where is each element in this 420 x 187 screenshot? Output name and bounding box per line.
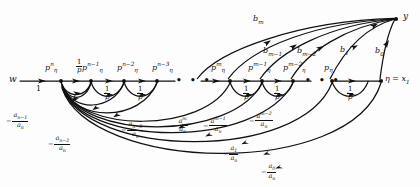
feedback-label-1: −a1an [223, 145, 238, 164]
feedback-label-n-3: −an−3an [121, 121, 143, 140]
node-label-w: w [9, 75, 17, 84]
edge-weight-gain-5: 1p [347, 86, 353, 101]
output-label-b-m: bm [253, 15, 264, 25]
node-label-n5: pm−1η [248, 62, 271, 74]
edge-weight-gain-top: 1p [76, 59, 82, 74]
edge-weight-gain-2: 1p [137, 86, 143, 101]
feedback-label-m-2: −am−2an [249, 112, 273, 130]
feedback-label-m-1: −am−1an [203, 117, 227, 135]
node-label-n6: pm−2η [283, 62, 306, 74]
edge-weight-gain-3: 1p [243, 86, 249, 101]
node-label-n3: pn−3η [152, 62, 173, 74]
node-label-y: y [403, 12, 408, 21]
ellipsis-left: • • • [176, 76, 212, 85]
edge-weight-gain-4: 1p [274, 86, 280, 101]
flow-graph-svg [0, 0, 420, 187]
node-label-n2: pn−2η [117, 62, 138, 74]
node-label-n7: pη [324, 62, 333, 74]
output-label-b-m-2: bm−2 [297, 47, 316, 57]
node-label-n4: pmη [211, 62, 225, 74]
figure-canvas: w y 1 pnη pn−1η pn−2η pn−3η pmη pm−1η pm… [0, 0, 420, 187]
edge-weight-gain-1: 1p [104, 86, 110, 101]
feedback-label-0: −a0an [261, 163, 276, 182]
output-label-b-0: b0 [375, 47, 384, 57]
node-label-n0: pnη [45, 62, 57, 74]
node-terminal-x1 [379, 79, 383, 83]
node-label-n1: pn−1η [82, 62, 103, 74]
output-label-b-1: b1 [340, 46, 349, 56]
node-label-terminal: η = x1 [385, 75, 410, 85]
feedback-label-m: −aman [171, 117, 188, 135]
edge-weight-input: 1 [36, 85, 41, 93]
ellipsis-right: • • • [305, 76, 341, 85]
feedback-label-n-1: −an−1an [6, 112, 28, 131]
output-label-b-m-1: bm−1 [263, 47, 282, 57]
feedback-label-n-2: −an−2an [48, 135, 70, 154]
